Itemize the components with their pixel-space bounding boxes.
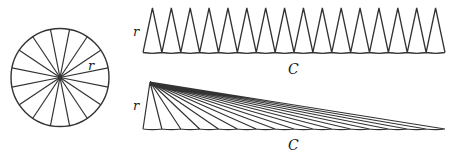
- sheared-fan: [143, 82, 445, 130]
- sectored-circle: [11, 29, 109, 127]
- sheared-sectors: [143, 82, 445, 130]
- circle-radius-label: r: [88, 58, 95, 73]
- circle-center: [58, 75, 62, 79]
- unrolled-sectors: [143, 8, 445, 53]
- unrolled-base-label: C: [288, 61, 299, 77]
- unrolled-triangles: [143, 8, 445, 53]
- sheared-height-label: r: [133, 98, 140, 113]
- unrolled-height-label: r: [133, 24, 140, 39]
- circle-area-diagram: r r C r C: [0, 0, 455, 155]
- sheared-base-label: C: [288, 137, 299, 153]
